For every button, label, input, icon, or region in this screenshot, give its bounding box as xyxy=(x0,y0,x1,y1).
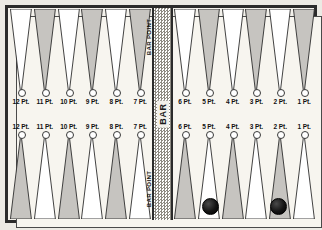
point-triangle[interactable] xyxy=(80,9,104,95)
point-triangle[interactable] xyxy=(292,9,316,95)
bar-point-label-top: BAR POINT xyxy=(146,19,152,56)
point-number-label: 7 Pt. xyxy=(128,96,152,107)
point-apex-circle xyxy=(206,131,214,139)
bottom-left-quadrant xyxy=(9,133,152,219)
point-number-label: 2 Pt. xyxy=(268,121,292,132)
point-number-label: 1 Pt. xyxy=(292,96,316,107)
point-triangle[interactable] xyxy=(104,9,128,95)
point-number-label: 8 Pt. xyxy=(104,121,128,132)
point-triangle[interactable] xyxy=(9,9,33,95)
point-apex-circle xyxy=(18,131,26,139)
point-number-label: 6 Pt. xyxy=(173,121,197,132)
bar-label: BAR xyxy=(157,100,169,127)
point-triangle[interactable] xyxy=(57,9,81,95)
top-right-point-labels: 6 Pt.5 Pt.4 Pt.3 Pt.2 Pt.1 Pt. xyxy=(173,96,316,107)
point-apex-circle xyxy=(230,131,238,139)
point-triangle[interactable] xyxy=(80,133,104,219)
point-number-label: 11 Pt. xyxy=(33,96,57,107)
backgammon-board-diagram: BAR 12 Pt.11 Pt.10 Pt.9 Pt.8 Pt.7 Pt. 6 … xyxy=(0,0,322,230)
point-number-label: 10 Pt. xyxy=(57,96,81,107)
point-triangle[interactable] xyxy=(57,133,81,219)
point-apex-circle xyxy=(182,131,190,139)
point-apex-circle xyxy=(137,131,145,139)
point-triangle[interactable] xyxy=(221,9,245,95)
point-number-label: 7 Pt. xyxy=(128,121,152,132)
point-number-label: 3 Pt. xyxy=(244,96,268,107)
point-triangle[interactable] xyxy=(173,133,197,219)
point-triangle[interactable] xyxy=(173,9,197,95)
point-apex-circle xyxy=(301,131,309,139)
top-left-point-labels: 12 Pt.11 Pt.10 Pt.9 Pt.8 Pt.7 Pt. xyxy=(9,96,152,107)
top-right-quadrant xyxy=(173,9,316,95)
point-number-label: 10 Pt. xyxy=(57,121,81,132)
point-number-label: 9 Pt. xyxy=(80,96,104,107)
point-triangle[interactable] xyxy=(244,133,268,219)
point-triangle[interactable] xyxy=(104,133,128,219)
point-number-label: 3 Pt. xyxy=(244,121,268,132)
point-triangle[interactable] xyxy=(244,9,268,95)
point-apex-circle xyxy=(42,131,50,139)
point-number-label: 9 Pt. xyxy=(80,121,104,132)
point-number-label: 5 Pt. xyxy=(197,121,221,132)
bar-point-label-bottom: BAR POINT xyxy=(146,171,152,208)
bottom-left-point-labels: 12 Pt.11 Pt.10 Pt.9 Pt.8 Pt.7 Pt. xyxy=(9,121,152,132)
point-triangle[interactable] xyxy=(221,133,245,219)
point-triangle[interactable] xyxy=(197,9,221,95)
point-number-label: 6 Pt. xyxy=(173,96,197,107)
checker-bottom-2pt[interactable] xyxy=(270,198,287,215)
point-number-label: 5 Pt. xyxy=(197,96,221,107)
checker-bottom-5pt[interactable] xyxy=(202,198,219,215)
bottom-right-quadrant xyxy=(173,133,316,219)
top-left-quadrant xyxy=(9,9,152,95)
point-number-label: 4 Pt. xyxy=(221,121,245,132)
point-number-label: 4 Pt. xyxy=(221,96,245,107)
bottom-right-point-labels: 6 Pt.5 Pt.4 Pt.3 Pt.2 Pt.1 Pt. xyxy=(173,121,316,132)
point-number-label: 8 Pt. xyxy=(104,96,128,107)
point-number-label: 2 Pt. xyxy=(268,96,292,107)
point-number-label: 11 Pt. xyxy=(33,121,57,132)
point-triangle[interactable] xyxy=(33,133,57,219)
point-number-label: 12 Pt. xyxy=(9,121,33,132)
point-number-label: 12 Pt. xyxy=(9,96,33,107)
point-triangle[interactable] xyxy=(9,133,33,219)
point-number-label: 1 Pt. xyxy=(292,121,316,132)
bar-column: BAR xyxy=(152,8,173,220)
point-apex-circle xyxy=(66,131,74,139)
point-triangle[interactable] xyxy=(33,9,57,95)
point-triangle[interactable] xyxy=(292,133,316,219)
point-triangle[interactable] xyxy=(268,9,292,95)
